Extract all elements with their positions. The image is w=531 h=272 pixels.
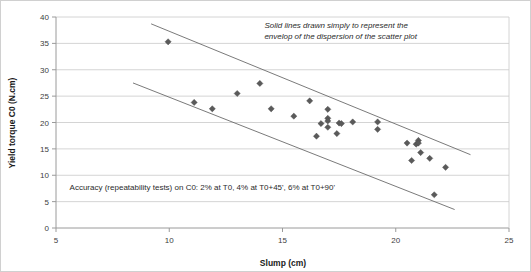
scatter-chart-figure: 0510152025303540510152025 Solid lines dr…: [0, 0, 531, 272]
y-tick-label-40: 40: [40, 13, 49, 22]
data-point-0: [165, 39, 171, 45]
tick-labels: 0510152025303540510152025: [40, 13, 514, 245]
data-point-9: [318, 120, 324, 126]
gridlines: [56, 17, 509, 202]
x-tick-label-25: 25: [505, 236, 514, 245]
chart-annotations: Solid lines drawn simply to represent th…: [70, 21, 418, 192]
x-tick-label-20: 20: [391, 236, 400, 245]
data-point-26: [427, 155, 433, 161]
data-markers: [165, 39, 449, 198]
y-tick-label-15: 15: [40, 145, 49, 154]
axes: [52, 17, 509, 232]
data-point-7: [307, 98, 313, 104]
x-tick-label-10: 10: [165, 236, 174, 245]
x-axis-title: Slump (cm): [260, 258, 306, 268]
y-tick-label-10: 10: [40, 171, 49, 180]
y-tick-label-25: 25: [40, 92, 49, 101]
data-point-4: [257, 80, 263, 86]
data-point-5: [268, 106, 274, 112]
data-point-28: [442, 164, 448, 170]
data-point-1: [191, 99, 197, 105]
y-axis-title: Yield torque C0 (N.cm): [7, 77, 17, 168]
y-tick-label-30: 30: [40, 66, 49, 75]
x-tick-label-15: 15: [278, 236, 287, 245]
data-point-27: [431, 192, 437, 198]
chart-canvas: 0510152025303540510152025 Solid lines dr…: [0, 0, 531, 272]
y-tick-label-35: 35: [40, 39, 49, 48]
data-point-18: [375, 119, 381, 125]
data-point-17: [350, 119, 356, 125]
data-point-10: [325, 106, 331, 112]
data-point-3: [234, 90, 240, 96]
data-point-19: [375, 126, 381, 132]
envelope-lines: [133, 24, 470, 210]
envelope-note-line-1: envelop of the dispersion of the scatter…: [264, 32, 417, 41]
y-tick-label-0: 0: [45, 224, 50, 233]
x-tick-label-5: 5: [54, 236, 59, 245]
data-point-14: [334, 130, 340, 136]
data-point-8: [313, 133, 319, 139]
y-tick-label-5: 5: [45, 198, 50, 207]
y-tick-label-20: 20: [40, 119, 49, 128]
data-point-6: [291, 113, 297, 119]
data-point-21: [409, 157, 415, 163]
accuracy-note-line-0: Accuracy (repeatability tests) on C0: 2%…: [70, 183, 336, 192]
envelope-note-line-0: Solid lines drawn simply to represent th…: [264, 21, 408, 30]
data-point-13: [325, 124, 331, 130]
data-point-20: [404, 140, 410, 146]
figure-border: [1, 1, 531, 272]
data-point-25: [418, 149, 424, 155]
data-point-2: [209, 106, 215, 112]
